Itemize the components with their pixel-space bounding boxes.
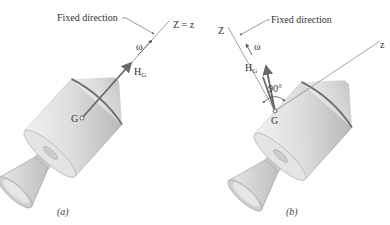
fixed-direction-leader-a [122,18,154,34]
omega-label-b: ω [254,41,261,52]
center-label-a: G [71,113,78,124]
center-of-mass-b [273,109,277,113]
spacecraft-body-b [215,60,372,224]
caption-a: (a) [57,206,69,218]
body-axis-label-b: z [380,39,385,50]
spacecraft-body-a [0,57,142,221]
right-angle-arc-b [265,97,285,102]
fixed-direction-leader-b [240,20,270,35]
momentum-label-b: HG [245,62,257,75]
omega-vector-b [246,44,252,55]
center-label-b: G [271,115,278,126]
angle-label-b: 90° [268,83,282,94]
panel-b: Fixed direction Z z ω HG 90° G (b) [215,14,385,223]
panel-a: Fixed direction Z = z ω HG G (a) [0,12,195,220]
fixed-direction-label-b: Fixed direction [271,14,332,25]
momentum-label-a: HG [134,66,146,79]
fixed-direction-label-a: Fixed direction [57,12,118,23]
axis-label-a: Z = z [173,19,195,30]
fixed-axis-label-b: Z [218,25,224,36]
caption-b: (b) [286,206,298,218]
diagram-canvas: Fixed direction Z = z ω HG G (a) [0,0,390,225]
center-of-mass-a [80,116,84,120]
omega-label-a: ω [136,41,143,52]
